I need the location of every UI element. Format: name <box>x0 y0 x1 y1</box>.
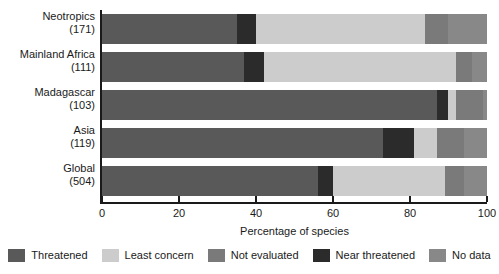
x-tick-label: 0 <box>99 207 105 219</box>
bar-segment-least-concern <box>256 14 425 44</box>
bar-segment-threatened <box>102 90 437 120</box>
stacked-bar <box>102 90 487 120</box>
row-label-global: Global(504) <box>0 162 95 188</box>
bar-segment-not-evaluated <box>437 128 464 158</box>
x-tick <box>178 196 180 202</box>
bar-segment-least-concern <box>264 52 457 82</box>
bar-segment-no-data <box>483 90 487 120</box>
legend-swatch-icon <box>102 249 119 262</box>
legend-label: Least concern <box>125 249 194 261</box>
legend-item-least-concern[interactable]: Least concern <box>102 249 194 262</box>
bar-segment-near-threatened <box>437 90 449 120</box>
legend-swatch-icon <box>429 249 446 262</box>
legend-swatch-icon <box>208 249 225 262</box>
stacked-bar <box>102 52 487 82</box>
bar-segment-least-concern <box>333 166 445 196</box>
bar-segment-no-data <box>472 52 487 82</box>
chart-legend: ThreatenedLeast concernNot evaluatedNear… <box>0 244 499 266</box>
x-axis-line <box>100 202 487 204</box>
bar-segment-no-data <box>464 166 487 196</box>
row-label-count: (111) <box>0 61 95 74</box>
bar-rows: Neotropics(171)Mainland Africa(111)Madag… <box>0 10 499 200</box>
bar-row: Madagascar(103) <box>0 86 499 124</box>
x-tick <box>332 196 334 202</box>
legend-item-not-evaluated[interactable]: Not evaluated <box>208 249 299 262</box>
bar-segment-threatened <box>102 128 383 158</box>
x-axis: 020406080100 <box>0 202 499 203</box>
x-tick-label: 100 <box>478 207 496 219</box>
stacked-bar <box>102 128 487 158</box>
row-label-count: (504) <box>0 175 95 188</box>
legend-swatch-icon <box>313 249 330 262</box>
x-axis-title: Percentage of species <box>0 225 499 237</box>
legend-item-no-data[interactable]: No data <box>429 249 491 262</box>
legend-swatch-icon <box>8 249 25 262</box>
legend-label: Near threatened <box>336 249 416 261</box>
bar-segment-no-data <box>448 14 487 44</box>
row-label-name: Mainland Africa <box>20 48 95 60</box>
bar-segment-not-evaluated <box>445 166 464 196</box>
x-axis-title-text: Percentage of species <box>240 225 349 237</box>
x-tick-label: 20 <box>173 207 185 219</box>
x-tick <box>486 196 488 202</box>
bar-segment-threatened <box>102 14 237 44</box>
row-label-madagascar: Madagascar(103) <box>0 86 95 112</box>
stacked-bar-chart: Neotropics(171)Mainland Africa(111)Madag… <box>0 0 499 274</box>
x-tick-label: 40 <box>250 207 262 219</box>
bar-segment-not-evaluated <box>456 52 471 82</box>
x-tick-label: 80 <box>404 207 416 219</box>
stacked-bar <box>102 166 487 196</box>
bar-segment-not-evaluated <box>456 90 483 120</box>
row-label-count: (103) <box>0 99 95 112</box>
row-label-mainland-africa: Mainland Africa(111) <box>0 48 95 74</box>
row-label-name: Asia <box>74 124 95 136</box>
x-tick-label: 60 <box>327 207 339 219</box>
bar-segment-near-threatened <box>244 52 263 82</box>
bar-segment-near-threatened <box>237 14 256 44</box>
bar-segment-near-threatened <box>383 128 414 158</box>
legend-label: Not evaluated <box>231 249 299 261</box>
bar-segment-threatened <box>102 52 244 82</box>
row-label-name: Global <box>63 162 95 174</box>
row-label-name: Neotropics <box>42 10 95 22</box>
row-label-count: (119) <box>0 137 95 150</box>
legend-item-near-threatened[interactable]: Near threatened <box>313 249 416 262</box>
bar-segment-least-concern <box>414 128 437 158</box>
bar-row: Asia(119) <box>0 124 499 162</box>
legend-item-threatened[interactable]: Threatened <box>8 249 87 262</box>
bar-segment-threatened <box>102 166 318 196</box>
stacked-bar <box>102 14 487 44</box>
row-label-count: (171) <box>0 23 95 36</box>
bar-segment-near-threatened <box>318 166 333 196</box>
bar-row: Global(504) <box>0 162 499 200</box>
row-label-asia: Asia(119) <box>0 124 95 150</box>
plot-area: Neotropics(171)Mainland Africa(111)Madag… <box>0 0 499 200</box>
bar-segment-least-concern <box>448 90 456 120</box>
bar-segment-not-evaluated <box>425 14 448 44</box>
x-tick <box>101 196 103 202</box>
legend-label: Threatened <box>31 249 87 261</box>
legend-label: No data <box>452 249 491 261</box>
x-tick <box>255 196 257 202</box>
row-label-name: Madagascar <box>34 86 95 98</box>
bar-row: Neotropics(171) <box>0 10 499 48</box>
bar-segment-no-data <box>464 128 487 158</box>
bar-row: Mainland Africa(111) <box>0 48 499 86</box>
x-tick <box>409 196 411 202</box>
row-label-neotropics: Neotropics(171) <box>0 10 95 36</box>
